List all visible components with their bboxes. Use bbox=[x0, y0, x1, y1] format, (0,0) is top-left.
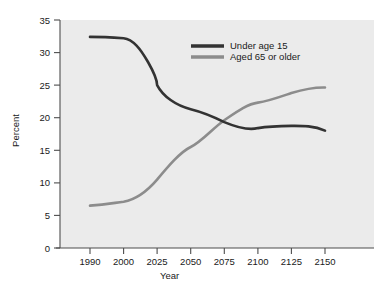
y-tick-label-10: 10 bbox=[24, 177, 50, 188]
x-axis-title: Year bbox=[160, 270, 179, 281]
y-tick-label-20: 20 bbox=[24, 112, 50, 123]
x-tick-label-2150: 2150 bbox=[305, 256, 345, 267]
y-tick-label-15: 15 bbox=[24, 145, 50, 156]
y-axis-title: Percent bbox=[10, 101, 21, 161]
y-tick-label-35: 35 bbox=[24, 15, 50, 26]
x-tick-marks bbox=[90, 248, 325, 254]
y-tick-marks bbox=[54, 20, 60, 248]
series-line-aged-65-or-older bbox=[90, 87, 325, 205]
y-tick-label-0: 0 bbox=[24, 243, 50, 254]
y-tick-label-5: 5 bbox=[24, 210, 50, 221]
y-tick-label-25: 25 bbox=[24, 80, 50, 91]
legend-label-under-age-15: Under age 15 bbox=[230, 40, 288, 51]
legend: Under age 15 Aged 65 or older bbox=[191, 41, 331, 73]
y-tick-label-30: 30 bbox=[24, 47, 50, 58]
chart-container: 35 30 25 20 15 10 5 0 1990 2000 2025 205… bbox=[0, 0, 374, 288]
legend-label-aged-65-or-older: Aged 65 or older bbox=[230, 51, 300, 62]
